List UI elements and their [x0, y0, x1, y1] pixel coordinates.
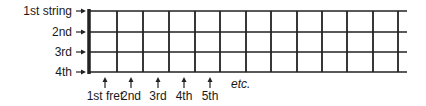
- string-label-1: 1st string: [0, 5, 72, 17]
- arrow-head-icon: [129, 77, 134, 82]
- arrow-head-icon: [81, 70, 86, 75]
- arrow-head-icon: [81, 9, 86, 14]
- arrow-head-icon: [182, 77, 187, 82]
- arrow-head-icon: [208, 77, 213, 82]
- fret-label-5: 5th: [190, 90, 230, 102]
- arrow-head-icon: [81, 30, 86, 35]
- string-label-2: 2nd: [0, 26, 72, 38]
- etc-label: etc.: [231, 78, 250, 90]
- arrow-head-icon: [156, 77, 161, 82]
- arrow-head-icon: [81, 50, 86, 55]
- arrow-head-icon: [103, 77, 108, 82]
- string-label-3: 3rd: [0, 46, 72, 58]
- string-label-4: 4th: [0, 66, 72, 78]
